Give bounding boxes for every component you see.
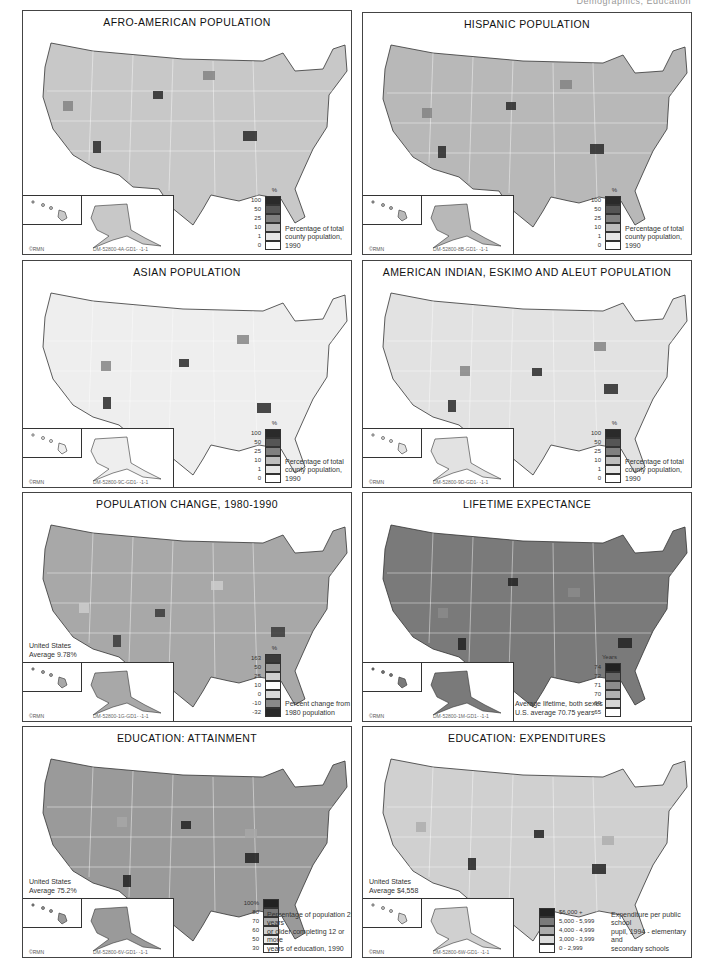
- average-line: United States: [29, 878, 77, 887]
- caption-line: Percentage of total: [625, 458, 692, 467]
- legend-item: 10: [551, 456, 621, 465]
- legend-item: 71: [551, 681, 621, 690]
- catalog-code: DM-52800-9C-GD1- -1-1: [93, 479, 148, 485]
- map-legend: % 163 50 25 10 0 -10 -32: [211, 645, 281, 718]
- legend-caption: Percent change from1980 population: [285, 700, 352, 717]
- caption-line: 1980 population: [285, 709, 352, 718]
- hawaii-inset: [363, 196, 422, 225]
- legend-item: 10: [551, 223, 621, 232]
- caption-line: Percentage of total: [285, 225, 352, 234]
- alaska-shape: [423, 200, 511, 250]
- legend-unit: %: [272, 645, 277, 651]
- legend-caption: Percentage of totalcounty population, 19…: [625, 458, 692, 484]
- caption-line: county population, 1990: [625, 466, 692, 483]
- copyright-credit: ©RMN: [29, 949, 44, 955]
- legend-item: 50: [211, 663, 281, 672]
- legend-item: 163: [211, 654, 281, 663]
- legend-item: 50: [551, 438, 621, 447]
- us-average: United StatesAverage 9.78%: [29, 642, 77, 659]
- map-panel-asian: ASIAN POPULATION: [22, 260, 352, 488]
- legend-swatch: [605, 690, 621, 699]
- legend-item: 10: [211, 681, 281, 690]
- legend-label: 50: [577, 205, 601, 214]
- catalog-code: DM-52800-6W-GD1- -1-1: [433, 949, 489, 955]
- alaska-hawaii-inset: ©RMN DM-52800-1M-GD1- -1-1: [363, 662, 514, 721]
- us-average: United StatesAverage $4,558: [369, 878, 418, 895]
- legend-swatch: [605, 429, 621, 438]
- legend-swatch: [265, 465, 281, 474]
- legend-swatch: [265, 214, 281, 223]
- legend-item: 1: [211, 465, 281, 474]
- alaska-hawaii-inset: ©RMN DM-52800-9C-GD1- -1-1: [23, 428, 174, 487]
- legend-item: 5,000 - 5,999: [539, 917, 619, 926]
- alaska-shape: [83, 903, 171, 953]
- legend-label: 74: [577, 663, 601, 672]
- legend-swatch: [265, 429, 281, 438]
- caption-line: secondary schools: [611, 945, 692, 954]
- alaska-shape: [423, 433, 511, 483]
- alaska-hawaii-inset: ©RMN DM-52800-6W-GD1- -1-1: [363, 898, 514, 957]
- hawaii-inset: [363, 899, 422, 928]
- legend-label: 100%: [235, 899, 259, 908]
- legend-item: 100%: [209, 899, 279, 908]
- average-line: Average 75.2%: [29, 887, 77, 896]
- legend-item: 25: [551, 214, 621, 223]
- map-panel-hispanic: HISPANIC POPULATION: [362, 12, 692, 255]
- copyright-credit: ©RMN: [29, 713, 44, 719]
- map-legend: % 100 50 25 10 1 0: [551, 187, 621, 251]
- legend-label: $6,000 +: [559, 908, 619, 917]
- legend-item: 50: [211, 205, 281, 214]
- legend-item: -10: [211, 699, 281, 708]
- legend-label: 50: [237, 205, 261, 214]
- legend-item: 0: [551, 474, 621, 483]
- catalog-code: DM-52800-8B-GD1- -1-1: [433, 246, 488, 252]
- caption-line: Percentage of population 25 years: [267, 911, 352, 928]
- hawaii-inset: [363, 429, 422, 458]
- legend-label: 100: [237, 196, 261, 205]
- legend-label: 25: [577, 214, 601, 223]
- caption-line: county population, 1990: [285, 233, 352, 250]
- legend-item: 25: [551, 447, 621, 456]
- legend-item: 0 - 2,999: [539, 944, 619, 953]
- legend-swatch: [605, 447, 621, 456]
- caption-line: county population, 1990: [625, 233, 692, 250]
- legend-swatch: [605, 456, 621, 465]
- average-line: United States: [29, 642, 77, 651]
- catalog-code: DM-52800-9D-GD1- -1-1: [433, 479, 488, 485]
- legend-label: 70: [577, 690, 601, 699]
- legend-label: 50: [577, 438, 601, 447]
- legend-swatch: [265, 447, 281, 456]
- copyright-credit: ©RMN: [29, 246, 44, 252]
- map-panel-lifetime-expectance: LIFETIME EXPECTANCE: [362, 492, 692, 722]
- legend-label: 50: [237, 438, 261, 447]
- legend-caption: Percentage of totalcounty population, 19…: [285, 458, 352, 484]
- legend-item: 1: [551, 232, 621, 241]
- hawaii-inset: [23, 429, 82, 458]
- legend-label: 25: [237, 447, 261, 456]
- legend-swatch: [265, 474, 281, 483]
- map-panel-american-indian: AMERICAN INDIAN, ESKIMO AND ALEUT POPULA…: [362, 260, 692, 488]
- legend-swatch: [605, 223, 621, 232]
- legend-swatch: [265, 681, 281, 690]
- legend-label: 4,000 - 4,999: [559, 926, 619, 935]
- legend-label: 50: [235, 935, 259, 944]
- legend-label: 25: [237, 672, 261, 681]
- legend-swatch: [605, 196, 621, 205]
- copyright-credit: ©RMN: [369, 713, 384, 719]
- alaska-shape: [83, 667, 171, 717]
- copyright-credit: ©RMN: [29, 479, 44, 485]
- legend-label: 0: [577, 474, 601, 483]
- legend-item: 0: [211, 241, 281, 250]
- legend-label: 163: [237, 654, 261, 663]
- legend-caption: Percentage of totalcounty population, 19…: [625, 225, 692, 251]
- legend-caption: Average lifetime, both sexesU.S. average…: [515, 700, 603, 717]
- legend-swatch: [539, 944, 555, 953]
- legend-label: 1: [237, 232, 261, 241]
- legend-label: 60: [235, 926, 259, 935]
- legend-label: 72: [577, 672, 601, 681]
- map-title: ASIAN POPULATION: [23, 266, 351, 278]
- caption-line: Average lifetime, both sexes: [515, 700, 603, 709]
- legend-item: 50: [211, 438, 281, 447]
- legend-swatch: [539, 935, 555, 944]
- legend-label: 80: [235, 908, 259, 917]
